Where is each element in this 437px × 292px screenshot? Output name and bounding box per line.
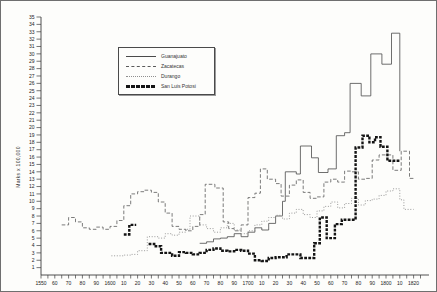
x-tick-label: 20 [273,280,279,286]
x-tick-label: 70 [342,280,348,286]
x-tick-label: 40 [162,280,168,286]
x-tick-label: 10 [397,280,403,286]
x-tick-label: 10 [259,280,265,286]
x-tick-label: 1800 [380,280,391,286]
y-tick-label: 8 [32,213,35,219]
series-zacatecas [62,151,414,231]
y-tick-label: 28 [29,65,35,71]
legend-item-san-luis-potosi: San Luis Potosi [126,83,214,89]
x-tick-label: 20 [135,280,141,286]
legend-line-sample-bold [126,85,156,88]
x-tick-label: 80 [218,280,224,286]
x-tick-label: 40 [300,280,306,286]
y-tick-label: 1 [32,264,35,270]
x-tick-label: 70 [204,280,210,286]
x-tick-label: 90 [369,280,375,286]
x-tick-label: 80 [356,280,362,286]
y-tick-label: 32 [29,36,35,42]
figure-frame: Marks x 100,000 123456789101112131415161… [0,0,437,292]
x-tick-label: 1550 [35,280,46,286]
x-tick-label: 10 [121,280,127,286]
y-tick-label: 21 [29,117,35,123]
series-san-luis-potosi [149,136,400,261]
x-tick-label: 1700 [242,280,253,286]
y-tick-label: 9 [32,205,35,211]
y-tick-label: 17 [29,146,35,152]
x-tick-label: 60 [52,280,58,286]
y-tick-label: 29 [29,58,35,64]
y-tick-label: 14 [29,169,35,175]
y-tick-label: 4 [32,242,35,248]
x-tick-label: 60 [190,280,196,286]
y-tick-label: 11 [29,191,34,197]
legend-item-durango: Durango [126,73,214,79]
y-tick-label: 31 [29,43,35,49]
y-tick-label: 16 [29,154,35,160]
x-tick-label: 90 [231,280,237,286]
y-tick-label: 25 [29,88,35,94]
y-tick-label: 15 [29,161,35,167]
silver-production-step-chart: 1234567891011121314151617181920212223242… [1,1,437,292]
y-tick-label: 35 [29,14,35,20]
x-tick-label: 1820 [408,280,419,286]
y-tick-label: 34 [29,21,35,27]
legend-line-sample-dotted [126,76,156,77]
legend-item-zacatecas: Zacatecas [126,63,214,69]
y-tick-label: 6 [32,228,35,234]
y-tick-label: 26 [29,80,35,86]
legend-label: Zacatecas [161,63,184,69]
legend-line-sample-solid [126,56,156,57]
x-tick-label: 50 [314,280,320,286]
y-tick-label: 22 [29,110,35,116]
x-tick-label: 30 [287,280,293,286]
y-tick-label: 3 [32,250,35,256]
y-tick-label: 19 [29,132,35,138]
x-tick-label: 90 [93,280,99,286]
y-tick-label: 7 [32,220,35,226]
y-tick-label: 12 [29,183,35,189]
legend-line-sample-dashed [126,66,156,67]
x-tick-label: 60 [328,280,334,286]
y-tick-label: 13 [29,176,35,182]
y-tick-label: 27 [29,73,35,79]
legend-label: Guanajuato [161,53,187,59]
legend-label: Durango [161,73,180,79]
y-tick-label: 18 [29,139,35,145]
y-tick-label: 24 [29,95,35,101]
y-tick-label: 10 [29,198,35,204]
x-tick-label: 1600 [104,280,115,286]
y-tick-label: 23 [29,102,35,108]
legend-item-guanajuato: Guanajuato [126,53,214,59]
y-tick-label: 5 [32,235,35,241]
legend-box: GuanajuatoZacatecasDurangoSan Luis Potos… [118,47,215,95]
x-tick-label: 30 [149,280,155,286]
series-san-luis-potosi [124,225,136,235]
y-tick-label: 30 [29,51,35,57]
y-tick-label: 33 [29,29,35,35]
x-tick-label: 50 [176,280,182,286]
x-tick-label: 70 [66,280,72,286]
y-tick-label: 2 [32,257,35,263]
y-tick-label: 20 [29,124,35,130]
x-tick-label: 80 [80,280,86,286]
legend-label: San Luis Potosi [161,83,196,89]
